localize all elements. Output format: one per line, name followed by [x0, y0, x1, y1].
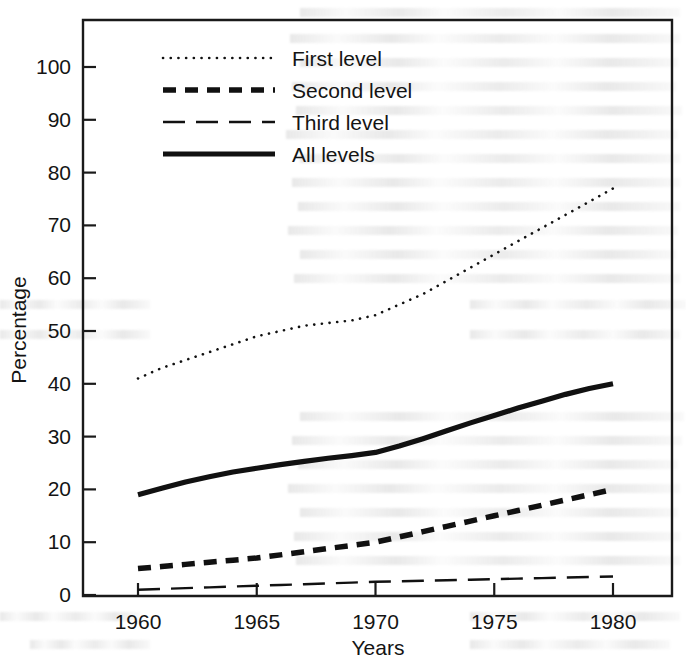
- y-tick-label: 100: [36, 55, 71, 78]
- x-tick-label: 1960: [115, 610, 162, 633]
- x-axis-title: Years: [352, 636, 405, 659]
- x-tick-label: 1965: [233, 610, 280, 633]
- legend-label-second-level: Second level: [292, 79, 412, 102]
- y-tick-label: 0: [59, 583, 71, 606]
- line-chart: 0102030405060708090100 19601965197019751…: [0, 0, 686, 670]
- y-tick-label: 20: [48, 477, 71, 500]
- y-tick-label: 70: [48, 213, 71, 236]
- y-axis-tick-labels: 0102030405060708090100: [36, 55, 71, 606]
- x-tick-label: 1970: [352, 610, 399, 633]
- y-tick-label: 90: [48, 108, 71, 131]
- legend-label-third-level: Third level: [292, 111, 389, 134]
- chart-legend: First levelSecond levelThird levelAll le…: [163, 47, 412, 166]
- series-second-level: [138, 489, 613, 568]
- y-tick-label: 80: [48, 161, 71, 184]
- x-tick-label: 1975: [471, 610, 518, 633]
- y-tick-label: 30: [48, 425, 71, 448]
- x-axis-tick-labels: 19601965197019751980: [115, 610, 637, 633]
- y-axis-ticks: [83, 67, 96, 595]
- y-tick-label: 10: [48, 530, 71, 553]
- y-tick-label: 40: [48, 372, 71, 395]
- y-tick-label: 50: [48, 319, 71, 342]
- x-tick-label: 1980: [590, 610, 637, 633]
- series-all-levels: [138, 384, 613, 495]
- series-first-level: [138, 188, 613, 378]
- legend-label-first-level: First level: [292, 47, 382, 70]
- plot-frame: [83, 20, 672, 596]
- chart-canvas: 0102030405060708090100 19601965197019751…: [0, 0, 686, 670]
- x-axis-ticks: [138, 583, 613, 596]
- y-tick-label: 60: [48, 266, 71, 289]
- legend-label-all-levels: All levels: [292, 143, 375, 166]
- y-axis-title: Percentage: [7, 276, 30, 383]
- data-series-group: [138, 188, 613, 589]
